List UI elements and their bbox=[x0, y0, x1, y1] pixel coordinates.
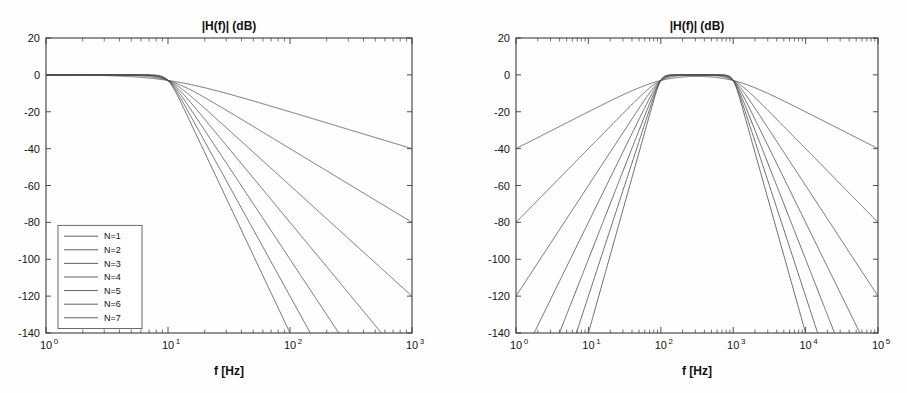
series-curve-N6 bbox=[516, 75, 878, 388]
plot-frame bbox=[516, 38, 878, 333]
chart-bandpass: 200-20-40-60-80-100-120-1401001011021031… bbox=[452, 0, 907, 393]
x-tick-label: 102 bbox=[655, 337, 674, 351]
x-tick-label: 102 bbox=[284, 337, 303, 351]
plot-title: |H(f)| (dB) bbox=[202, 19, 257, 33]
svg-text:10: 10 bbox=[655, 339, 667, 351]
legend-label: N=6 bbox=[104, 299, 121, 309]
legend-label: N=4 bbox=[104, 272, 121, 282]
svg-text:0: 0 bbox=[54, 337, 59, 346]
y-tick-label: -40 bbox=[494, 143, 510, 155]
svg-text:10: 10 bbox=[727, 339, 739, 351]
svg-text:2: 2 bbox=[298, 337, 303, 346]
y-tick-label: -20 bbox=[494, 106, 510, 118]
y-tick-label: -60 bbox=[494, 180, 510, 192]
y-tick-label: -80 bbox=[494, 216, 510, 228]
y-tick-label: 20 bbox=[498, 32, 510, 44]
legend-label: N=2 bbox=[104, 245, 121, 255]
y-tick-label: -120 bbox=[18, 290, 40, 302]
svg-text:3: 3 bbox=[741, 337, 746, 346]
chart-lowpass: N=1N=2N=3N=4N=5N=6N=7 200-20-40-60-80-10… bbox=[0, 0, 455, 393]
bandpass-curves bbox=[516, 75, 878, 388]
svg-text:10: 10 bbox=[799, 339, 811, 351]
x-axis-label: f [Hz] bbox=[214, 364, 244, 378]
x-tick-label: 105 bbox=[872, 337, 891, 351]
svg-text:3: 3 bbox=[420, 337, 425, 346]
figure-page: N=1N=2N=3N=4N=5N=6N=7 200-20-40-60-80-10… bbox=[0, 0, 907, 393]
series-curve-N5 bbox=[516, 75, 878, 388]
y-tick-label: 0 bbox=[504, 69, 510, 81]
x-tick-label: 100 bbox=[40, 337, 59, 351]
svg-text:10: 10 bbox=[162, 339, 174, 351]
legend-label: N=3 bbox=[104, 259, 121, 269]
y-tick-label: -80 bbox=[24, 216, 40, 228]
legend-label: N=7 bbox=[104, 313, 121, 323]
svg-text:10: 10 bbox=[40, 339, 52, 351]
x-tick-label: 104 bbox=[799, 337, 818, 351]
series-curve-N2 bbox=[516, 75, 878, 222]
y-tick-label: -140 bbox=[18, 327, 40, 339]
y-tick-label: 0 bbox=[34, 69, 40, 81]
svg-text:10: 10 bbox=[406, 339, 418, 351]
svg-text:10: 10 bbox=[510, 339, 522, 351]
y-tick-label: -100 bbox=[488, 253, 510, 265]
svg-text:10: 10 bbox=[582, 339, 594, 351]
series-curve-N1 bbox=[516, 76, 878, 148]
y-tick-label: -20 bbox=[24, 106, 40, 118]
x-axis-label: f [Hz] bbox=[682, 364, 712, 378]
series-curve-N7 bbox=[516, 75, 878, 388]
svg-text:4: 4 bbox=[813, 337, 818, 346]
plot-title: |H(f)| (dB) bbox=[670, 19, 725, 33]
lowpass-plot-svg: N=1N=2N=3N=4N=5N=6N=7 200-20-40-60-80-10… bbox=[0, 0, 455, 393]
x-tick-label: 101 bbox=[582, 337, 601, 351]
bandpass-plot-svg: 200-20-40-60-80-100-120-1401001011021031… bbox=[452, 0, 907, 393]
svg-text:10: 10 bbox=[284, 339, 296, 351]
legend-label: N=5 bbox=[104, 286, 121, 296]
svg-text:0: 0 bbox=[524, 337, 529, 346]
x-tick-label: 103 bbox=[406, 337, 425, 351]
svg-text:2: 2 bbox=[669, 337, 674, 346]
svg-text:1: 1 bbox=[176, 337, 181, 346]
y-tick-label: 20 bbox=[28, 32, 40, 44]
series-curve-N4 bbox=[516, 75, 878, 370]
series-curve-N3 bbox=[516, 75, 878, 296]
y-tick-label: -120 bbox=[488, 290, 510, 302]
svg-text:1: 1 bbox=[596, 337, 601, 346]
svg-text:5: 5 bbox=[886, 337, 891, 346]
bandpass-axes bbox=[516, 38, 878, 333]
y-tick-label: -60 bbox=[24, 180, 40, 192]
x-tick-label: 101 bbox=[162, 337, 181, 351]
y-tick-label: -140 bbox=[488, 327, 510, 339]
svg-text:10: 10 bbox=[872, 339, 884, 351]
x-tick-label: 100 bbox=[510, 337, 529, 351]
y-tick-label: -40 bbox=[24, 143, 40, 155]
x-tick-label: 103 bbox=[727, 337, 746, 351]
y-tick-label: -100 bbox=[18, 253, 40, 265]
legend-label: N=1 bbox=[104, 231, 121, 241]
lowpass-legend[interactable]: N=1N=2N=3N=4N=5N=6N=7 bbox=[58, 225, 142, 328]
bandpass-labels: 200-20-40-60-80-100-120-1401001011021031… bbox=[488, 19, 891, 378]
